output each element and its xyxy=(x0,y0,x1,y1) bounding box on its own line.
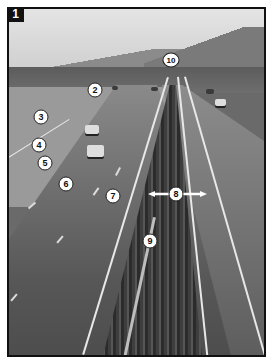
callout-4: 4 xyxy=(32,138,47,153)
callout-9: 9 xyxy=(143,234,158,249)
callout-5: 5 xyxy=(38,156,53,171)
motorway-photo xyxy=(7,7,266,357)
callout-3: 3 xyxy=(34,110,49,125)
callout-8: 8 xyxy=(169,187,184,202)
car xyxy=(206,89,214,94)
callout-7: 7 xyxy=(106,189,121,204)
car xyxy=(85,125,99,134)
callout-6: 6 xyxy=(59,177,74,192)
car xyxy=(112,86,118,90)
callout-10: 10 xyxy=(163,53,180,68)
car xyxy=(151,87,158,91)
car xyxy=(87,145,104,157)
panel-label-badge: 1 xyxy=(7,7,24,22)
car xyxy=(215,99,226,106)
callout-2: 2 xyxy=(88,83,103,98)
